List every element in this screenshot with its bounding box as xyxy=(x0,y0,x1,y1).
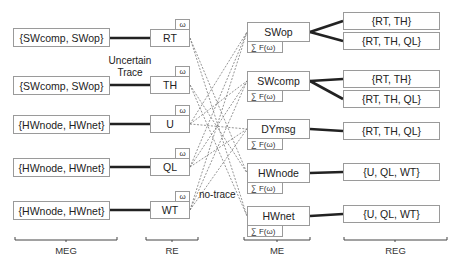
reg-box-label: {U, QL, WT} xyxy=(363,208,420,220)
re-box-th: TH xyxy=(150,76,190,94)
reg-box: {RT, TH, QL} xyxy=(343,122,440,140)
sum-f-omega-tab: ∑ F(ω) xyxy=(247,182,283,194)
sum-f-omega-tab: ∑ F(ω) xyxy=(247,225,283,237)
me-box-label: HWnet xyxy=(262,210,294,222)
reg-box: {RT, TH} xyxy=(343,12,440,30)
me-box-hwnode: HWnode xyxy=(247,163,310,183)
column-label-reg: REG xyxy=(344,245,447,256)
omega-icon: ω xyxy=(179,149,185,158)
sum-icon: ∑ F(ω) xyxy=(251,140,275,149)
sum-icon: ∑ F(ω) xyxy=(251,43,275,52)
re-box-label: RT xyxy=(163,32,177,44)
meg-box: {SWcomp, SWop} xyxy=(13,76,110,95)
meg-box: {HWnode, HWnet} xyxy=(13,158,110,177)
me-box-dymsg: DYmsg xyxy=(247,119,310,139)
reg-box-label: {RT, TH, QL} xyxy=(362,35,421,47)
reg-box-label: {RT, TH, QL} xyxy=(362,93,421,105)
me-box-label: HWnode xyxy=(258,167,299,179)
re-box-u: U xyxy=(150,115,190,133)
reg-box: {RT, TH, QL} xyxy=(343,32,440,50)
me-box-swop: SWop xyxy=(247,22,310,42)
uncertain-trace-line1: Uncertain xyxy=(104,55,156,67)
column-label-me: ME xyxy=(244,245,310,256)
omega-icon: ω xyxy=(179,106,185,115)
re-box-label: TH xyxy=(163,79,177,91)
me-box-swcomp: SWcomp xyxy=(247,71,310,91)
meg-box-label: {HWnode, HWnet} xyxy=(19,119,105,131)
column-label-re: RE xyxy=(146,245,198,256)
re-box-label: QL xyxy=(163,161,177,173)
re-box-label: WT xyxy=(162,204,178,216)
sum-f-omega-tab: ∑ F(ω) xyxy=(247,90,283,102)
omega-icon: ω xyxy=(179,20,185,29)
sum-icon: ∑ F(ω) xyxy=(251,184,275,193)
re-box-rt: RT xyxy=(150,29,190,47)
meg-box-label: {SWcomp, SWop} xyxy=(20,80,104,92)
meg-box-label: {HWnode, HWnet} xyxy=(19,205,105,217)
reg-box: {U, QL, WT} xyxy=(343,205,440,223)
no-trace-label: no-trace xyxy=(199,189,236,200)
meg-box: {HWnode, HWnet} xyxy=(13,201,110,220)
me-reg-links xyxy=(310,21,343,216)
meg-box: {SWcomp, SWop} xyxy=(13,28,110,47)
re-box-label: U xyxy=(166,118,174,130)
omega-icon: ω xyxy=(179,67,185,76)
reg-box: {U, QL, WT} xyxy=(343,163,440,181)
column-label-meg: MEG xyxy=(15,245,117,256)
sum-icon: ∑ F(ω) xyxy=(251,227,275,236)
sum-f-omega-tab: ∑ F(ω) xyxy=(247,138,283,150)
column-brackets xyxy=(15,237,447,242)
sum-icon: ∑ F(ω) xyxy=(251,92,275,101)
reg-box: {RT, TH} xyxy=(343,70,440,88)
me-box-label: SWop xyxy=(264,26,292,38)
sum-f-omega-tab: ∑ F(ω) xyxy=(247,41,283,53)
re-box-ql: QL xyxy=(150,158,190,176)
meg-box: {HWnode, HWnet} xyxy=(13,115,110,134)
meg-box-label: {SWcomp, SWop} xyxy=(20,32,104,44)
me-box-hwnet: HWnet xyxy=(247,206,310,226)
reg-box: {RT, TH, QL} xyxy=(343,90,440,108)
re-box-wt: WT xyxy=(150,201,190,219)
me-box-label: SWcomp xyxy=(257,75,300,87)
omega-icon: ω xyxy=(179,192,185,201)
reg-box-label: {RT, TH} xyxy=(372,15,411,27)
reg-box-label: {RT, TH} xyxy=(372,73,411,85)
uncertain-trace-line2: Trace xyxy=(104,67,156,79)
reg-box-label: {RT, TH, QL} xyxy=(362,125,421,137)
uncertain-trace-label: Uncertain Trace xyxy=(104,55,156,79)
me-box-label: DYmsg xyxy=(261,123,295,135)
meg-box-label: {HWnode, HWnet} xyxy=(19,162,105,174)
reg-box-label: {U, QL, WT} xyxy=(363,166,420,178)
